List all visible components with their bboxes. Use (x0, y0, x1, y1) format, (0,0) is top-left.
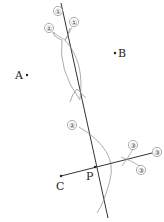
step-mark-3: ③ (136, 165, 145, 174)
construction-diagram: ① ① ① A B ② ③ ③ ③ C P (0, 0, 164, 222)
point-p-label: P (86, 170, 94, 183)
point-b-dot (114, 52, 116, 54)
step-mark-3: ③ (152, 147, 161, 156)
leader-line (52, 32, 65, 40)
crossing-arc-b (122, 149, 133, 166)
point-a-dot (26, 74, 28, 76)
svg-text:③: ③ (130, 142, 136, 150)
svg-text:①: ① (55, 8, 61, 16)
bisector-arc-lower-left (70, 89, 77, 102)
step-mark-3: ③ (128, 140, 137, 149)
svg-text:①: ① (71, 19, 77, 27)
point-c-label: C (56, 180, 64, 193)
svg-text:②: ② (69, 122, 75, 130)
step-mark-2: ② (67, 120, 76, 129)
step-mark-1: ① (44, 23, 53, 32)
point-p-dot (94, 166, 96, 168)
svg-text:③: ③ (154, 149, 160, 157)
step-mark-1: ① (53, 6, 62, 15)
svg-text:①: ① (46, 25, 52, 33)
step-mark-1: ① (69, 17, 78, 26)
point-b-label: B (118, 47, 126, 60)
bisector-arc-right (65, 28, 81, 99)
point-a-label: A (14, 69, 24, 82)
point-c-dot (60, 175, 62, 177)
svg-text:③: ③ (138, 167, 144, 175)
